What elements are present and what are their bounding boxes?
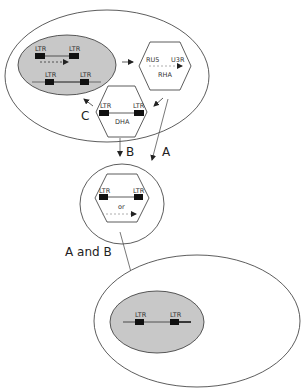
middle-ltr-left-label: LTR bbox=[99, 187, 111, 195]
pathway-c-label: C bbox=[81, 109, 89, 123]
bottom-ltr-right-label: LTR bbox=[170, 311, 182, 319]
nucleus-ltr-right-label: LTR bbox=[69, 45, 81, 53]
a-and-b-label: A and B bbox=[65, 245, 112, 259]
middle-particle: LTR LTR or bbox=[80, 164, 164, 244]
ltr-box-icon bbox=[69, 53, 79, 59]
rha-ru5-label: RU5 bbox=[146, 56, 159, 64]
ltr-box-icon bbox=[35, 53, 45, 59]
middle-ltr-right-label: LTR bbox=[133, 187, 145, 195]
dha-ltr-right-label: LTR bbox=[133, 102, 145, 110]
rha-particle: RU5 U3R RHA bbox=[139, 42, 191, 90]
rha-u3r-label: U3R bbox=[171, 56, 185, 64]
ltr-box-icon bbox=[135, 319, 144, 325]
retrovirus-diagram: LTR LTR LTR LTR RU5 U3R RHA bbox=[0, 0, 307, 391]
dha-name-label: DHA bbox=[115, 118, 130, 126]
nucleus-ltr-left-label: LTR bbox=[35, 45, 47, 53]
bottom-ltr-left-label: LTR bbox=[135, 311, 147, 319]
pathway-a-label: A bbox=[162, 145, 171, 159]
or-label: or bbox=[118, 203, 125, 211]
ltr-box-icon bbox=[170, 319, 179, 325]
integrated-ltr-right-label: LTR bbox=[80, 71, 92, 79]
top-nucleus: LTR LTR LTR LTR bbox=[18, 35, 116, 95]
ltr-box-icon bbox=[99, 110, 109, 116]
bottom-cell: LTR LTR bbox=[94, 255, 300, 387]
rha-name-label: RHA bbox=[158, 71, 172, 79]
top-cell: LTR LTR LTR LTR RU5 U3R RHA bbox=[5, 10, 209, 142]
pathway-b-label: B bbox=[126, 145, 134, 159]
ltr-box-icon bbox=[45, 79, 54, 85]
ltr-box-icon bbox=[134, 110, 144, 116]
integrated-ltr-left-label: LTR bbox=[45, 71, 57, 79]
ltr-box-icon bbox=[80, 79, 89, 85]
dha-ltr-left-label: LTR bbox=[100, 102, 112, 110]
